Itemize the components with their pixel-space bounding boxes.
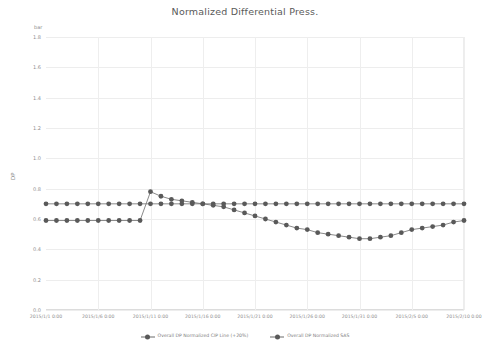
data-point [54,218,59,223]
data-point [336,233,341,238]
data-point [211,203,216,208]
data-point [242,211,247,216]
data-point [420,201,425,206]
data-point [336,201,341,206]
data-point [169,197,174,202]
y-tick-label: 0.0 [33,307,41,313]
x-tick-label: 2015/1/6 0:00 [82,314,114,319]
y-tick-label: 1.2 [33,125,41,131]
y-axis-title: DP [10,172,16,180]
x-tick-label: 2015/1/1 0:00 [30,314,62,319]
data-point [75,201,80,206]
data-point [347,235,352,240]
chart-title: Normalized Differential Press. [0,6,490,17]
data-point [127,201,132,206]
x-tick-label: 2015/1/26 0:00 [290,314,325,319]
data-point [305,201,310,206]
legend-label: Overall DP Normalized CIP Line (+20%) [158,333,249,340]
data-point [169,201,174,206]
chart-legend: Overall DP Normalized CIP Line (+20%)Ove… [0,333,490,340]
data-point [388,201,393,206]
data-point [106,218,111,223]
data-point [326,201,331,206]
data-point [117,218,122,223]
data-point [378,235,383,240]
x-tick-label: 2015/1/11 0:00 [133,314,168,319]
data-point [451,220,456,225]
data-point [451,201,456,206]
data-series [44,189,467,241]
data-point [232,208,237,213]
data-point [409,201,414,206]
data-point [378,201,383,206]
data-point [420,226,425,231]
data-point [159,194,164,199]
data-point [253,201,258,206]
data-point [357,201,362,206]
data-point [148,201,153,206]
data-point [357,236,362,241]
x-tick-label: 2015/1/21 0:00 [237,314,272,319]
data-point [368,236,373,241]
data-point [221,204,226,209]
data-point [44,201,49,206]
data-point [44,218,49,223]
data-point [294,226,299,231]
y-tick-label: 0.6 [33,216,41,222]
data-point [138,201,143,206]
data-point [263,201,268,206]
gridline-vertical [464,37,465,310]
data-series [44,201,467,206]
data-point [127,218,132,223]
data-point [430,201,435,206]
data-point [388,233,393,238]
legend-marker-icon [141,334,155,340]
data-point [200,201,205,206]
data-point [253,214,258,219]
data-point [232,201,237,206]
data-point [347,201,352,206]
series-layer [46,37,464,310]
data-point [106,201,111,206]
data-point [315,230,320,235]
y-tick-label: 1.4 [33,95,41,101]
data-point [159,201,164,206]
data-point [441,223,446,228]
chart-container: Normalized Differential Press. bar DP 1.… [0,0,490,360]
data-point [315,201,320,206]
gridline-horizontal [46,310,464,311]
data-point [284,223,289,228]
data-point [65,218,70,223]
data-point [148,189,153,194]
legend-item[interactable]: Overall DP Normalized CIP Line (+20%) [141,333,249,340]
x-tick-label: 2015/1/31 0:00 [342,314,377,319]
data-point [85,218,90,223]
data-point [274,220,279,225]
data-point [284,201,289,206]
plot-area: 1.81.61.41.21.00.80.60.40.20.0 2015/1/1 … [46,37,464,310]
data-point [242,201,247,206]
data-point [430,224,435,229]
x-tick-label: 2015/1/16 0:00 [185,314,220,319]
legend-item[interactable]: Overall DP Normalized SAS [270,333,349,340]
data-point [305,227,310,232]
x-tick-label: 2015/2/10 0:00 [446,314,481,319]
data-point [75,218,80,223]
data-point [179,198,184,203]
data-point [409,227,414,232]
data-point [274,201,279,206]
data-point [326,232,331,237]
data-point [54,201,59,206]
data-point [462,218,467,223]
data-point [462,201,467,206]
x-tick-label: 2015/2/5 0:00 [396,314,428,319]
legend-label: Overall DP Normalized SAS [287,333,349,340]
data-point [65,201,70,206]
data-point [399,230,404,235]
data-point [294,201,299,206]
data-point [96,218,101,223]
y-tick-label: 1.8 [33,34,41,40]
y-tick-label: 0.2 [33,277,41,283]
data-point [190,200,195,205]
data-point [441,201,446,206]
